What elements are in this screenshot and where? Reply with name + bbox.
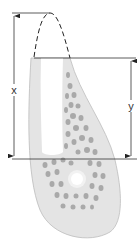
y-measurement: y bbox=[128, 61, 134, 156]
x-label: x bbox=[11, 84, 17, 96]
y-label: y bbox=[128, 100, 134, 112]
bone-body bbox=[29, 58, 121, 238]
bone-diagram: x y bbox=[0, 0, 140, 247]
dashed-crown-outline bbox=[34, 13, 70, 58]
socket bbox=[41, 58, 63, 155]
x-measurement: x bbox=[11, 16, 17, 156]
